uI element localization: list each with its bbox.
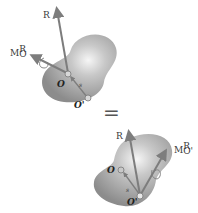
bottom-point-O-label: O xyxy=(107,166,115,175)
moment-scripts: RO' xyxy=(183,144,193,154)
diagram-canvas xyxy=(0,0,198,213)
bottom-body-shape xyxy=(94,134,172,206)
moment-sub: O xyxy=(19,52,26,57)
bottom-rigid-body xyxy=(94,134,172,206)
bottom-moment-label: MRO' xyxy=(174,145,193,155)
moment-sub: O' xyxy=(183,149,193,154)
moment-scripts: RO xyxy=(19,47,26,57)
top-moment-label: MRO xyxy=(10,48,27,58)
top-body-shape xyxy=(42,34,117,102)
top-s-label: s xyxy=(79,82,82,88)
top-force-label: R xyxy=(43,11,50,20)
moment-base: M xyxy=(174,145,183,155)
bottom-s-label: s xyxy=(126,187,129,193)
top-point-O-label: O xyxy=(57,80,65,89)
moment-base: M xyxy=(10,48,19,58)
top-point-Oprime-label: O' xyxy=(74,101,85,110)
top-point-Oprime xyxy=(85,95,91,101)
bottom-point-O xyxy=(118,167,124,173)
bottom-point-Oprime-label: O' xyxy=(127,198,138,207)
top-point-O xyxy=(65,71,71,77)
bottom-force-label: R xyxy=(116,132,123,141)
bottom-point-Oprime xyxy=(137,193,143,199)
top-rigid-body xyxy=(42,34,117,102)
equals-sign: = xyxy=(103,100,120,124)
